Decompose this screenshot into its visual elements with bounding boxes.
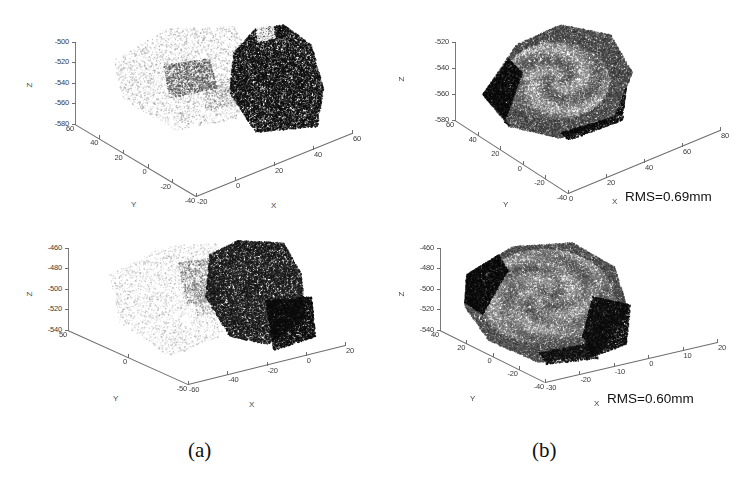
y-tick-label: 40 [421, 331, 439, 339]
y-tick-label: 0 [474, 357, 492, 365]
y-tick-label: 0 [504, 165, 522, 173]
x-tick-label: 40 [645, 164, 667, 172]
rms-label-top: RMS=0.69mm [625, 189, 712, 204]
z-tick-label: -480 [0, 264, 62, 272]
x-tick-label: -20 [268, 367, 290, 375]
x-tick-label: -10 [615, 368, 637, 376]
z-tick-label: -520 [0, 305, 62, 313]
axis-name-x: X [249, 400, 254, 409]
x-tick-label: 10 [684, 352, 706, 360]
panel-top-right: Z Y X RMS=0.69mm -520-540-560-5806040200… [372, 0, 744, 240]
figure-root: Z Y X -500-520-540-560-5806040200-20-40-… [0, 0, 744, 480]
panel-bottom-right: Z Y X RMS=0.60mm -460-480-500-520-540402… [372, 232, 744, 432]
x-tick-label: 20 [718, 344, 740, 352]
y-tick-label: -40 [549, 194, 567, 202]
y-tick-label: 20 [104, 154, 122, 162]
y-tick-label: 20 [481, 150, 499, 158]
z-tick-label: -460 [372, 244, 434, 252]
point-cloud-top-right [464, 22, 669, 142]
z-tick-label: -560 [0, 99, 69, 107]
x-tick-label: -60 [189, 386, 211, 394]
x-tick-label: 0 [236, 182, 258, 190]
x-tick-label: 20 [346, 347, 368, 355]
y-tick-label: -20 [500, 370, 518, 378]
axis-name-y: Y [503, 200, 508, 209]
y-tick-label: 0 [109, 358, 127, 366]
y-tick-label: 20 [447, 344, 465, 352]
z-tick-label: -520 [0, 58, 69, 66]
panel-top-left: Z Y X -500-520-540-560-5806040200-20-40-… [0, 0, 372, 240]
z-tick-label: -540 [0, 79, 69, 87]
axis-name-x: X [271, 201, 276, 210]
y-tick-label: 0 [129, 168, 147, 176]
x-tick-label: 60 [683, 148, 705, 156]
axis-name-y: Y [470, 394, 475, 403]
y-tick-label: 40 [80, 139, 98, 147]
axis-name-x: X [594, 399, 599, 408]
y-tick-label: 40 [459, 136, 477, 144]
y-tick-label: 60 [56, 125, 74, 133]
z-tick-label: -520 [372, 305, 434, 313]
x-tick-label: 80 [721, 132, 743, 140]
x-tick-label: 40 [314, 151, 336, 159]
z-tick-label: -540 [372, 64, 449, 72]
x-tick-label: -30 [546, 384, 568, 392]
y-tick-label: -20 [526, 179, 544, 187]
x-tick-label: 20 [275, 167, 297, 175]
z-tick-label: -560 [372, 90, 449, 98]
y-tick-label: -20 [153, 183, 171, 191]
point-cloud-bottom-left [105, 240, 345, 362]
rms-label-bottom: RMS=0.60mm [607, 391, 694, 406]
x-tick-label: -40 [228, 376, 250, 384]
y-tick-label: -40 [526, 383, 544, 391]
x-tick-label: 20 [607, 179, 629, 187]
axis-name-y: Y [131, 200, 136, 209]
caption-a: (a) [188, 438, 211, 463]
x-tick-label: 0 [649, 360, 671, 368]
z-tick-label: -500 [0, 285, 62, 293]
panel-bottom-left: Z Y X -460-480-500-520-540500-50-60-40-2… [0, 232, 372, 432]
z-tick-label: -460 [0, 244, 62, 252]
axis-name-z: Z [397, 72, 406, 82]
y-tick-label: 50 [49, 331, 67, 339]
y-tick-label: 60 [436, 121, 454, 129]
y-tick-label: -50 [169, 385, 187, 393]
z-tick-label: -500 [372, 285, 434, 293]
x-tick-label: 0 [569, 195, 591, 203]
z-tick-label: -500 [0, 38, 69, 46]
caption-b: (b) [532, 438, 557, 463]
x-tick-label: -20 [580, 376, 602, 384]
x-tick-label: 0 [307, 357, 329, 365]
z-tick-label: -480 [372, 264, 434, 272]
x-tick-label: -20 [197, 198, 219, 206]
axis-name-y: Y [113, 394, 118, 403]
z-tick-label: -520 [372, 38, 449, 46]
point-cloud-top-left [105, 22, 340, 142]
y-tick-label: -40 [177, 197, 195, 205]
axis-name-x: X [612, 197, 617, 206]
